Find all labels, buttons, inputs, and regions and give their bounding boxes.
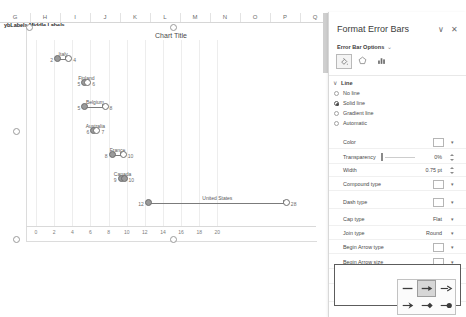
dropdown-caret-icon[interactable]: ▾ [451,139,454,145]
column-header-m[interactable]: M [180,13,210,22]
spinner-icon[interactable] [449,153,455,162]
dropdown-caret-icon[interactable]: ▾ [451,199,454,205]
chart-gridline [127,40,128,226]
property-value[interactable]: 0.75 pt [426,167,443,173]
chevron-down-icon[interactable]: ∨ [438,25,444,34]
column-header-l[interactable]: L [150,13,180,22]
slider-knob[interactable] [381,153,383,161]
series-marker-end[interactable]: 4 [65,55,72,62]
x-tick-label: 0 [29,229,43,235]
property-row-join-type[interactable]: Join typeRound▾ [329,227,466,240]
x-tick-label: 14 [156,229,170,235]
close-icon[interactable]: ✕ [451,25,458,34]
chart-series-row[interactable]: Australia67 [90,126,100,138]
property-row-compound-type[interactable]: Compound type▾ [329,178,466,191]
radio-automatic[interactable]: Automatic [343,120,367,126]
bar-chart-icon[interactable] [374,54,388,67]
arrow-oval-icon[interactable] [436,297,455,314]
column-header-k[interactable]: K [120,13,150,22]
chart-handle-midleft[interactable] [13,128,20,135]
spinner-icon[interactable] [449,166,455,175]
series-start-value: 9 [114,177,117,183]
dropdown-caret-icon[interactable]: ▾ [451,181,454,187]
chart-handle-topmiddle[interactable] [170,24,177,31]
column-header-i[interactable]: I [60,13,90,22]
row-separator [329,225,466,226]
series-marker-start[interactable]: 12 [145,199,152,206]
chart-gridline [54,40,55,226]
arrow-diamond-icon[interactable] [417,297,436,314]
column-header-j[interactable]: J [90,13,120,22]
series-marker-end[interactable]: 6 [84,79,91,86]
arrow-triangle-icon[interactable] [417,280,436,297]
chart-series-row[interactable]: Belgium58 [81,102,108,114]
property-row-dash-type[interactable]: Dash type▾ [329,196,466,209]
series-marker-end[interactable]: 10 [120,151,127,158]
chart-title[interactable]: Chart Title [26,32,316,39]
paint-bucket-icon[interactable] [336,54,352,69]
x-tick-label: 4 [65,229,79,235]
error-bar-options-label[interactable]: Error Bar Options [337,44,384,50]
column-header-p[interactable]: P [270,13,300,22]
series-marker-start[interactable]: 8 [109,151,116,158]
column-header-g[interactable]: G [0,13,30,22]
column-header-o[interactable]: O [240,13,270,22]
x-axis-line [26,226,316,227]
arrow-none-icon[interactable] [398,280,417,297]
chart-series-row[interactable]: Finland56 [81,78,91,90]
property-label: Color [343,139,356,145]
chart-series-row[interactable]: France810 [109,150,127,162]
series-marker-end[interactable]: 28 [283,199,290,206]
property-row-width[interactable]: Width0.75 pt [329,164,466,177]
series-marker-start[interactable]: 5 [81,103,88,110]
property-row-transparency[interactable]: Transparency0% [329,151,466,164]
radio-button-icon[interactable] [334,101,339,106]
series-marker-end[interactable]: 7 [93,127,100,134]
chart-handle-bottommiddle[interactable] [170,236,177,243]
column-header-h[interactable]: H [30,13,60,22]
property-row-begin-arrow-type[interactable]: Begin Arrow type▾ [329,241,466,254]
chart-handle-topleft[interactable] [26,24,33,31]
series-marker-start[interactable]: 2 [54,55,61,62]
arrow-open-icon[interactable] [436,280,455,297]
arrow-stealth-icon[interactable] [398,297,417,314]
chart-handle-bottomleft[interactable] [13,236,20,243]
transparency-slider[interactable] [385,157,415,158]
dropdown-caret-icon[interactable]: ▾ [451,230,454,236]
series-marker-end[interactable]: 8 [102,103,109,110]
row-separator [329,148,466,149]
chart-series-row[interactable]: Italy24 [54,54,72,66]
property-row-cap-type[interactable]: Cap typeFlat▾ [329,213,466,226]
gallery-preview-icon[interactable] [433,243,444,252]
pentagon-icon[interactable] [355,54,369,67]
chart-series-row[interactable]: United States1228 [145,198,290,210]
line-section-header[interactable]: Line [341,80,353,86]
column-header-n[interactable]: N [210,13,240,22]
error-bar-line[interactable] [149,203,286,204]
radio-gradient-line[interactable]: Gradient line [343,110,374,116]
chevron-down-icon-options[interactable]: ⌄ [387,44,392,50]
series-end-value: 10 [128,153,134,159]
chart-series-row[interactable]: Canada910 [118,174,128,186]
dropdown-caret-icon[interactable]: ▾ [451,216,454,222]
property-value[interactable]: Round [426,230,442,236]
series-marker-end[interactable]: 10 [121,175,128,182]
property-value[interactable]: Flat [433,216,442,222]
gallery-preview-icon[interactable] [433,180,444,189]
gallery-preview-icon[interactable] [433,198,444,207]
radio-button-icon[interactable] [334,121,339,126]
pane-tab-icons[interactable] [336,54,461,68]
property-row-color[interactable]: Color▾ [329,136,466,149]
color-swatch-icon[interactable] [433,138,444,147]
arrow-type-gallery-popup[interactable] [397,279,456,315]
x-tick-label: 2 [47,229,61,235]
radio-button-icon[interactable] [334,111,339,116]
radio-solid-line[interactable]: Solid line [343,100,365,106]
end-arrow-selection-box[interactable] [334,264,461,306]
radio-no-line[interactable]: No line [343,90,360,96]
radio-button-icon[interactable] [334,91,339,96]
chevron-expand-icon-line[interactable]: ∨ [333,80,337,86]
dropdown-caret-icon[interactable]: ▾ [451,244,454,250]
property-value[interactable]: 0% [434,154,442,160]
chart-object[interactable]: Chart Title 02468101214161820 Italy24Fin… [26,26,316,241]
